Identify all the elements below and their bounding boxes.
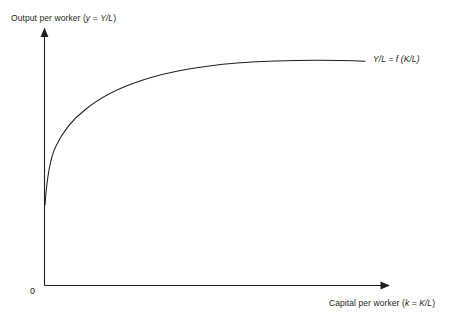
curve-label-lhs: Y/L	[373, 54, 386, 64]
origin-label: 0	[30, 287, 35, 297]
y-axis-label-equals: =	[90, 13, 100, 23]
y-axis-label: Output per worker (y = Y/L)	[11, 14, 116, 23]
x-axis-label-expression: K/L	[419, 298, 432, 308]
curve-label-rhs: f (K/L)	[396, 54, 420, 64]
y-axis-arrowhead-icon	[41, 28, 49, 38]
x-axis-arrowhead-icon	[381, 282, 391, 290]
y-axis-label-prefix: Output per worker (	[11, 13, 86, 23]
x-axis-label-prefix: Capital per worker (	[329, 298, 405, 308]
x-axis-label-equals: =	[409, 298, 419, 308]
y-axis-label-expression: Y/L	[100, 13, 113, 23]
production-function-figure: Output per worker (y = Y/L) Capital per …	[0, 0, 461, 324]
x-axis-label: Capital per worker (k = K/L)	[329, 299, 435, 308]
curve-label: Y/L = f (K/L)	[373, 55, 420, 64]
curve-label-equals: =	[386, 54, 396, 64]
y-axis-label-suffix: )	[113, 13, 116, 23]
production-function-curve	[45, 60, 365, 205]
chart-canvas	[0, 0, 461, 324]
x-axis-label-suffix: )	[432, 298, 435, 308]
